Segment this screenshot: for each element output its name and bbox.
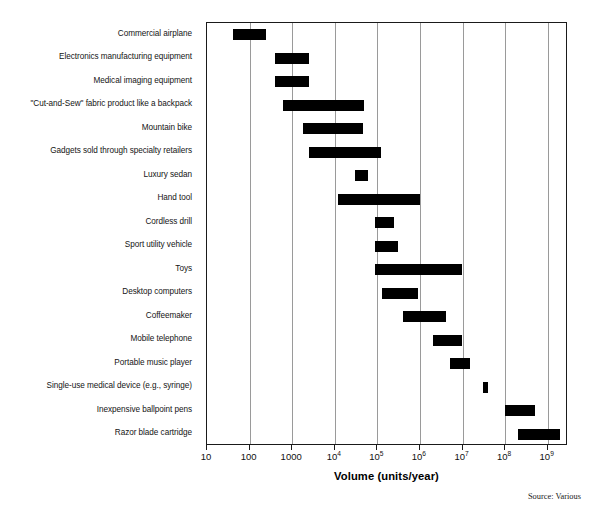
x-tick: [419, 445, 420, 450]
x-tick: [376, 445, 377, 450]
plot-area: [206, 22, 567, 445]
range-bar: [382, 288, 418, 299]
category-label-column: Commercial airplaneElectronics manufactu…: [0, 22, 200, 445]
gridline: [420, 23, 421, 444]
x-tick-label: 100: [241, 451, 257, 463]
source-note: Source: Various: [528, 492, 581, 501]
x-tick-label: 106: [412, 451, 426, 463]
category-label: Portable music player: [114, 358, 192, 368]
x-tick: [334, 445, 335, 450]
gridline: [335, 23, 336, 444]
category-label: Gadgets sold through specialty retailers: [50, 146, 192, 156]
x-tick: [462, 445, 463, 450]
x-axis-title: Volume (units/year): [206, 470, 567, 482]
volume-range-chart: Commercial airplaneElectronics manufactu…: [0, 0, 589, 513]
x-tick: [547, 445, 548, 450]
x-tick-label: 107: [454, 451, 468, 463]
range-bar: [403, 311, 446, 322]
x-tick-label: 108: [497, 451, 511, 463]
range-bar: [518, 429, 561, 440]
range-bar: [355, 170, 368, 181]
category-label: Cordless drill: [145, 217, 192, 227]
range-bar: [375, 264, 462, 275]
category-label: Electronics manufacturing equipment: [59, 52, 192, 62]
gridline: [377, 23, 378, 444]
x-tick-label: 104: [327, 451, 341, 463]
x-axis-tick-labels: 101001000104105106107108109: [206, 451, 567, 465]
range-bar: [433, 335, 463, 346]
gridline: [505, 23, 506, 444]
category-label: Inexpensive ballpoint pens: [97, 405, 192, 415]
range-bar: [275, 53, 309, 64]
range-bar: [505, 405, 535, 416]
x-tick-label: 109: [540, 451, 554, 463]
x-tick-label: 10: [201, 451, 212, 463]
category-label: Sport utility vehicle: [125, 240, 192, 250]
category-label: Hand tool: [157, 193, 192, 203]
category-label: Desktop computers: [122, 287, 192, 297]
range-bar: [275, 76, 309, 87]
range-bar: [303, 123, 363, 134]
category-label: Medical imaging equipment: [94, 76, 192, 86]
x-tick: [249, 445, 250, 450]
x-tick: [206, 445, 207, 450]
range-bar: [375, 217, 394, 228]
x-tick: [291, 445, 292, 450]
range-bar: [483, 382, 488, 393]
x-tick-label: 105: [369, 451, 383, 463]
range-bar: [338, 194, 420, 205]
category-label: Coffeemaker: [146, 311, 192, 321]
category-label: Toys: [175, 264, 192, 274]
range-bar: [450, 358, 470, 369]
category-label: Single-use medical device (e.g., syringe…: [47, 381, 192, 391]
gridline: [250, 23, 251, 444]
category-label: Razor blade cartridge: [115, 428, 192, 438]
category-label: Luxury sedan: [143, 170, 192, 180]
x-tick: [504, 445, 505, 450]
range-bar: [283, 100, 365, 111]
x-tick-label: 1000: [281, 451, 302, 463]
category-label: "Cut-and-Sew" fabric product like a back…: [30, 99, 192, 109]
range-bar: [309, 147, 381, 158]
gridline: [463, 23, 464, 444]
category-label: Mountain bike: [142, 123, 192, 133]
gridline: [548, 23, 549, 444]
range-bar: [233, 29, 267, 40]
category-label: Mobile telephone: [130, 334, 192, 344]
range-bar: [375, 241, 397, 252]
category-label: Commercial airplane: [118, 29, 192, 39]
